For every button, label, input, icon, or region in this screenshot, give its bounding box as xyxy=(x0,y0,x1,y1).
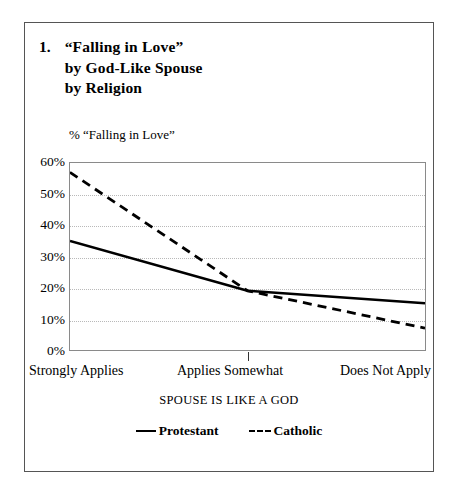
line-protestant xyxy=(70,241,425,303)
figure-title: 1. “Falling in Love” by God-Like Spouse … xyxy=(39,37,203,99)
line-catholic xyxy=(70,172,425,328)
y-tick-60: 60% xyxy=(40,155,65,169)
x-category-does-not-apply: Does Not Apply xyxy=(340,363,431,379)
y-axis-caption: % “Falling in Love” xyxy=(69,127,175,143)
x-axis-center-tick xyxy=(248,352,249,361)
title-line-3: by Religion xyxy=(65,78,203,99)
y-tick-20: 20% xyxy=(40,281,65,295)
legend-label-protestant: Protestant xyxy=(159,423,219,439)
y-tick-50: 50% xyxy=(40,187,65,201)
dashed-line-swatch-icon xyxy=(249,430,271,432)
x-axis-title: SPOUSE IS LIKE A GOD xyxy=(25,393,433,408)
legend-item-catholic: Catholic xyxy=(249,423,323,439)
title-line-2: by God-Like Spouse xyxy=(65,58,203,79)
x-category-applies-somewhat: Applies Somewhat xyxy=(177,363,283,379)
chart-legend: Protestant Catholic xyxy=(25,423,433,439)
y-tick-10: 10% xyxy=(40,313,65,327)
y-tick-0: 0% xyxy=(47,344,65,358)
title-line-1: “Falling in Love” xyxy=(65,37,203,58)
y-tick-40: 40% xyxy=(40,218,65,232)
solid-line-swatch-icon xyxy=(136,430,156,432)
figure-number: 1. xyxy=(39,37,51,99)
figure-panel: 1. “Falling in Love” by God-Like Spouse … xyxy=(24,22,434,472)
y-tick-30: 30% xyxy=(40,250,65,264)
series-lines xyxy=(70,163,425,350)
x-category-strongly-applies: Strongly Applies xyxy=(29,363,124,379)
x-axis-category-labels: Strongly Applies Applies Somewhat Does N… xyxy=(25,363,435,385)
legend-item-protestant: Protestant xyxy=(136,423,219,439)
figure-title-text: “Falling in Love” by God-Like Spouse by … xyxy=(65,37,203,99)
y-axis-ticks: 60% 50% 40% 30% 20% 10% 0% xyxy=(25,156,69,356)
legend-label-catholic: Catholic xyxy=(274,423,323,439)
plot-area xyxy=(69,162,426,351)
